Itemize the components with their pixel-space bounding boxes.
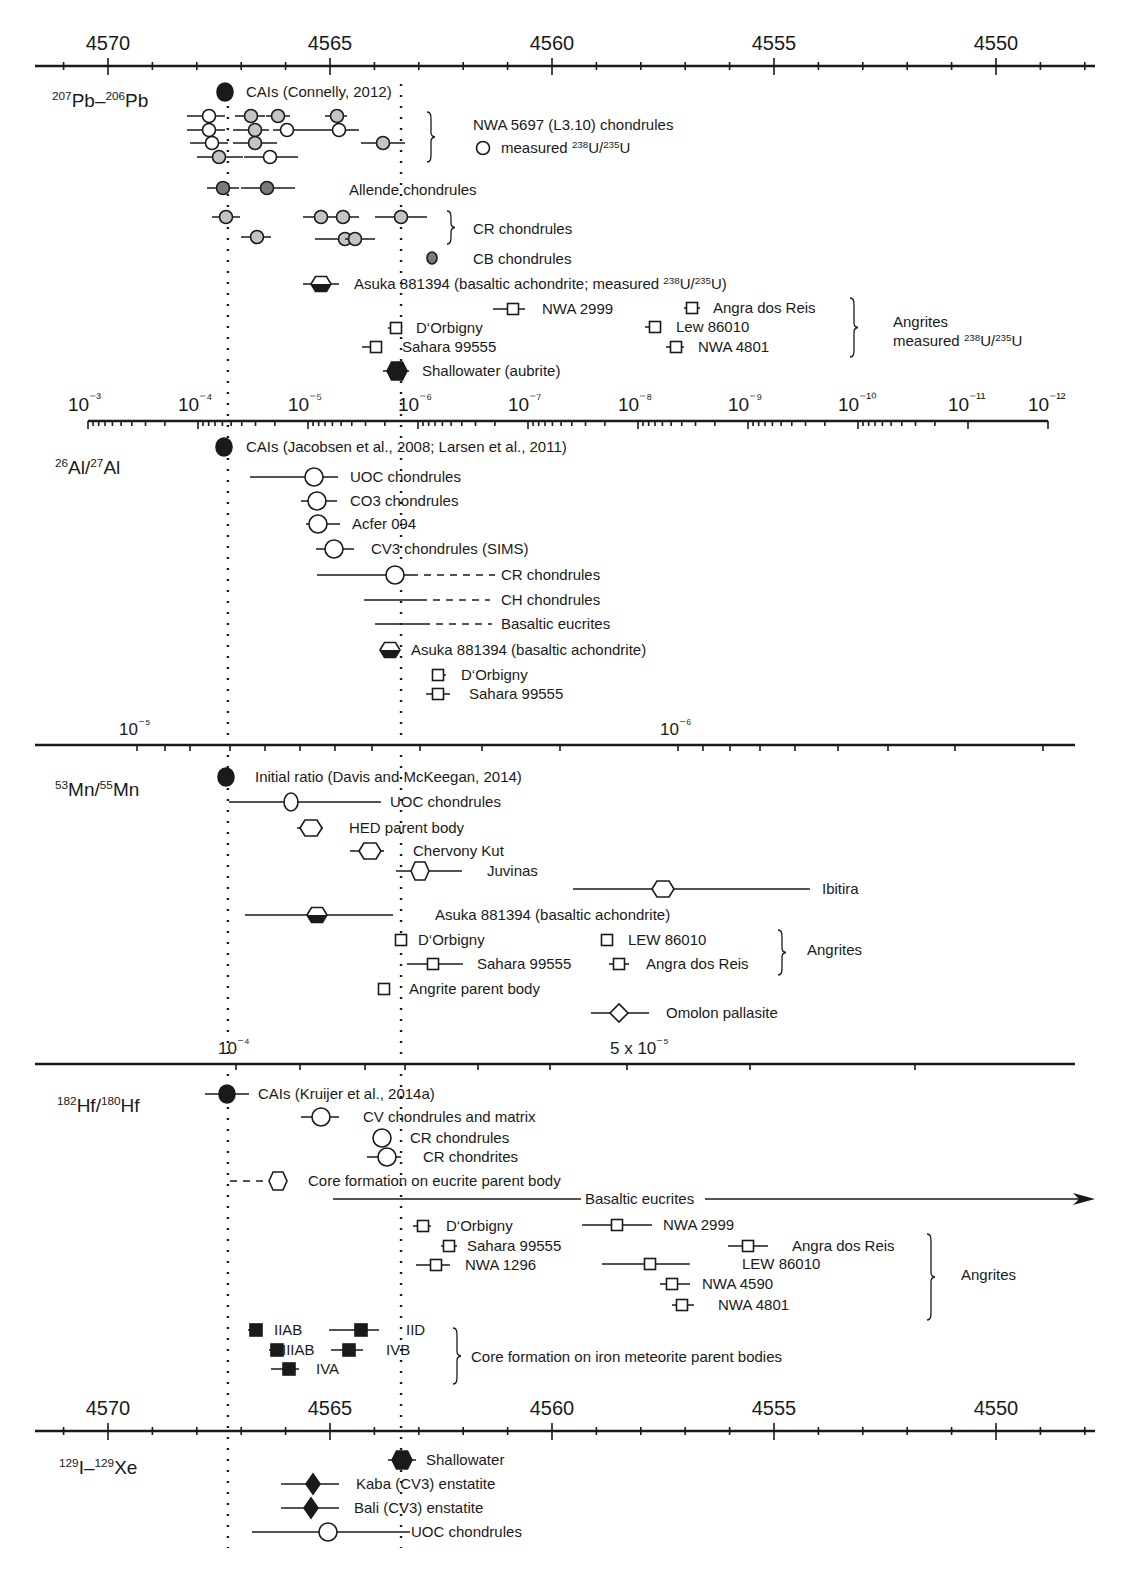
axes: 4570456545604555455010⁻³10⁻⁴10⁻⁵10⁻⁶10⁻⁷… — [35, 32, 1095, 1440]
data-point — [187, 110, 225, 123]
data-point: NWA 4801 — [666, 338, 769, 355]
axis-tick-label: 4565 — [308, 1397, 353, 1419]
point-label: Initial ratio (Davis and McKeegan, 2014) — [255, 768, 522, 785]
data-point: Omolon pallasite — [591, 1004, 778, 1022]
axis-tick-label: 10⁻⁴ — [178, 390, 212, 415]
data-point: CR chondrules — [317, 566, 600, 584]
data-point: Initial ratio (Davis and McKeegan, 2014) — [218, 768, 522, 786]
data-point — [197, 151, 243, 164]
point-label: NWA 2999 — [663, 1216, 734, 1233]
point-label: Chervony Kut — [413, 842, 505, 859]
data-point — [187, 124, 225, 137]
point-label: Sahara 99555 — [402, 338, 496, 355]
axis-tick-label: 4570 — [86, 1397, 131, 1419]
brace-bracket — [427, 112, 435, 162]
point-label: CAIs (Connelly, 2012) — [246, 83, 392, 100]
data-point: Basaltic eucrites — [375, 615, 610, 632]
data-point: Kaba (CV3) enstatite — [281, 1474, 495, 1494]
point-label: IID — [406, 1321, 425, 1338]
panel-hf: 182Hf/180HfCAIs (Kruijer et al., 2014a)C… — [57, 1085, 1095, 1384]
point-label: CO3 chondrules — [350, 492, 458, 509]
data-point: Angra dos Reis — [684, 299, 816, 316]
annotation: measured 238U/235U — [501, 139, 630, 156]
data-point: Angra dos Reis — [609, 955, 749, 972]
point-label: NWA 1296 — [465, 1256, 536, 1273]
data-point: NWA 4801 — [672, 1296, 789, 1313]
data-point: Asuka 881394 (basaltic achondrite) — [245, 906, 670, 923]
axis-tick-label: 4565 — [308, 32, 353, 54]
panel-mn: 53Mn/55MnInitial ratio (Davis and McKeeg… — [55, 768, 862, 1022]
data-point: Angra dos Reis — [728, 1237, 895, 1254]
data-point: Sahara 99555 — [426, 685, 563, 702]
data-point — [233, 137, 277, 150]
axis-tick-label: 4550 — [974, 32, 1019, 54]
data-point — [325, 110, 347, 123]
data-point: IVA — [271, 1360, 339, 1377]
brace-bracket — [850, 298, 858, 357]
point-label: Acfer 094 — [352, 515, 416, 532]
data-point — [375, 211, 427, 224]
data-point: CAIs (Connelly, 2012) — [217, 83, 392, 101]
data-point: Asuka 881394 (basaltic achondrite; measu… — [303, 275, 727, 292]
data-point: UOC chondrules — [250, 468, 461, 486]
point-label: Kaba (CV3) enstatite — [356, 1475, 495, 1492]
axis-tick-label: 10⁻³ — [68, 390, 101, 415]
annotation: measured 238U/235U — [893, 332, 1022, 349]
panel-label: 53Mn/55Mn — [55, 778, 139, 800]
point-label: Angra dos Reis — [646, 955, 749, 972]
group-label: Angrites — [807, 941, 862, 958]
point-label: HED parent body — [349, 819, 465, 836]
data-point: Angrite parent body — [378, 980, 540, 997]
data-point: Sahara 99555 — [407, 955, 571, 972]
data-point — [241, 231, 271, 244]
point-label: IVA — [316, 1360, 339, 1377]
axis-tick-label: 4550 — [974, 1397, 1019, 1419]
data-point: Shallowater — [388, 1451, 504, 1469]
data-point — [361, 137, 405, 150]
data-point — [266, 110, 290, 123]
point-label: CV chondrules and matrix — [363, 1108, 536, 1125]
data-point — [303, 211, 333, 224]
data-point: NWA 2999 — [493, 300, 613, 317]
data-point: NWA 4590 — [660, 1275, 773, 1292]
data-point: CAIs (Jacobsen et al., 2008; Larsen et a… — [216, 438, 567, 456]
data-point: Ibitira — [573, 880, 859, 897]
point-label: NWA 4801 — [698, 338, 769, 355]
brace-bracket — [927, 1234, 935, 1320]
data-point — [233, 124, 269, 137]
axis-hf: 10⁻⁴5 x 10⁻⁵ — [35, 1035, 1075, 1070]
point-label: NWA 4590 — [702, 1275, 773, 1292]
data-point: CV chondrules and matrix — [301, 1108, 536, 1126]
data-point — [317, 124, 359, 137]
point-label: UOC chondrules — [350, 468, 461, 485]
axis-mn: 10⁻⁵10⁻⁶ — [35, 716, 1075, 751]
axis-tick-label: 5 x 10⁻⁵ — [610, 1035, 669, 1058]
data-point — [273, 124, 317, 137]
group-label: Allende chondrules — [349, 181, 477, 198]
data-point: CV3 chondrules (SIMS) — [316, 540, 529, 558]
axis-tick-label: 10⁻⁶ — [660, 716, 691, 739]
axis-tick-label: 4555 — [752, 32, 797, 54]
panel-label: 26Al/27Al — [55, 456, 120, 478]
point-label: Basaltic eucrites — [585, 1190, 694, 1207]
axis-tick-label: 10⁻⁴ — [218, 1035, 250, 1058]
point-label: Ibitira — [822, 880, 859, 897]
point-label: NWA 4801 — [718, 1296, 789, 1313]
data-point: D‘Orbigny — [396, 931, 486, 948]
panel-pb: 207Pb–206PbCAIs (Connelly, 2012)Asuka 88… — [52, 83, 1022, 380]
panel-al: 26Al/27AlCAIs (Jacobsen et al., 2008; La… — [55, 438, 646, 702]
data-point: Core formation on eucrite parent body — [230, 1172, 561, 1190]
point-label: Omolon pallasite — [666, 1004, 778, 1021]
data-point: CAIs (Kruijer et al., 2014a) — [205, 1085, 435, 1103]
point-label: Sahara 99555 — [469, 685, 563, 702]
data-point: IVB — [331, 1341, 410, 1358]
axis-tick-label: 4560 — [530, 1397, 575, 1419]
point-label: Core formation on eucrite parent body — [308, 1172, 561, 1189]
axis-al: 10⁻³10⁻⁴10⁻⁵10⁻⁶10⁻⁷10⁻⁸10⁻⁹10⁻¹⁰10⁻¹¹10… — [68, 390, 1066, 429]
data-point: Basaltic eucrites — [333, 1190, 1095, 1207]
point-label: Shallowater — [426, 1451, 504, 1468]
axis-tick-label: 10⁻⁷ — [508, 390, 541, 415]
data-point — [207, 182, 239, 195]
axis-tick-label: 10⁻¹¹ — [948, 390, 986, 415]
point-label: Basaltic eucrites — [501, 615, 610, 632]
